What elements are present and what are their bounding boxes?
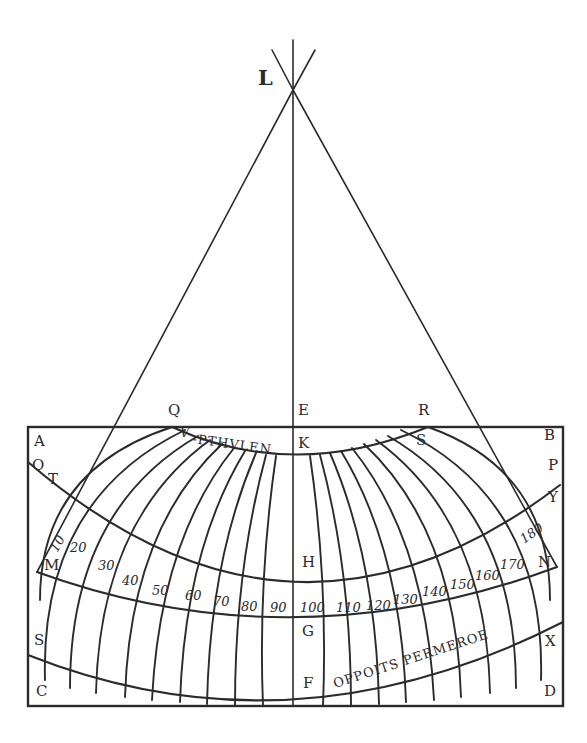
- label-K: K: [298, 434, 310, 452]
- label-C: C: [36, 682, 47, 700]
- svg-text:110: 110: [336, 600, 361, 615]
- svg-text:30: 30: [98, 558, 115, 573]
- label-O: O: [32, 456, 44, 474]
- svg-text:180: 180: [517, 520, 546, 547]
- svg-text:120: 120: [366, 598, 391, 613]
- label-F: F: [303, 674, 313, 692]
- svg-text:170: 170: [500, 557, 525, 572]
- label-X: X: [545, 632, 556, 650]
- inscription-north: -PTHVLEN: [192, 431, 273, 457]
- svg-text:100: 100: [300, 600, 325, 615]
- svg-text:40: 40: [121, 573, 139, 588]
- label-S-top: S: [416, 431, 426, 449]
- svg-text:60: 60: [185, 588, 202, 603]
- svg-text:70: 70: [213, 594, 230, 609]
- svg-text:160: 160: [475, 568, 500, 583]
- label-S: S: [34, 631, 44, 649]
- projection-diagram: L E K Q R S A B O T P Y M N H G S X C D …: [0, 0, 587, 743]
- label-T: T: [48, 470, 58, 488]
- label-Y: Y: [547, 488, 559, 506]
- label-L: L: [258, 65, 273, 90]
- svg-text:130: 130: [393, 592, 418, 607]
- meridians: [40, 427, 550, 706]
- label-G: G: [302, 622, 314, 640]
- label-A: A: [33, 432, 45, 450]
- label-B: B: [544, 426, 555, 444]
- label-H: H: [302, 553, 315, 571]
- label-R: R: [418, 401, 430, 419]
- svg-text:150: 150: [450, 577, 475, 592]
- degree-labels: 10 20 30 40 50 60 70 80 90 100 110 120 1…: [47, 520, 546, 615]
- svg-text:90: 90: [270, 600, 287, 615]
- label-E: E: [298, 401, 309, 419]
- label-D: D: [544, 682, 556, 700]
- svg-text:80: 80: [241, 599, 258, 614]
- label-N: N: [538, 553, 551, 571]
- svg-text:50: 50: [152, 583, 169, 598]
- svg-text:140: 140: [422, 584, 447, 599]
- label-M: M: [44, 556, 59, 574]
- label-Q: Q: [168, 401, 180, 419]
- svg-text:20: 20: [69, 540, 87, 555]
- label-P: P: [548, 456, 558, 474]
- label-V: V: [180, 425, 191, 440]
- apex-lines: [37, 40, 557, 706]
